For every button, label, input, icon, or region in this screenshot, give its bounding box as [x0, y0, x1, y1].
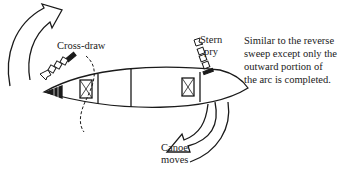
cross-draw-label: Cross-draw — [57, 40, 105, 52]
stern-pry-label-line2: pry — [200, 46, 222, 58]
stern-pry-label: Stern pry — [200, 34, 222, 58]
caption-line: sweep except only the — [244, 47, 338, 60]
canoe-hull — [44, 67, 248, 107]
caption-line: outward portion of — [244, 60, 338, 73]
bow-rotation-arrow — [8, 4, 62, 86]
caption-line: Similar to the reverse — [244, 34, 338, 47]
canoe-moves-label-line1: Canoe — [161, 142, 188, 154]
cross-draw-paddle — [40, 52, 76, 80]
canoe-moves-label-line2: moves — [161, 154, 188, 166]
stern-pry-label-line1: Stern — [200, 34, 222, 46]
caption-text: Similar to the reverse sweep except only… — [244, 34, 338, 86]
caption-line: the arc is completed. — [244, 73, 338, 86]
canoe-moves-label: Canoe moves — [161, 142, 188, 166]
